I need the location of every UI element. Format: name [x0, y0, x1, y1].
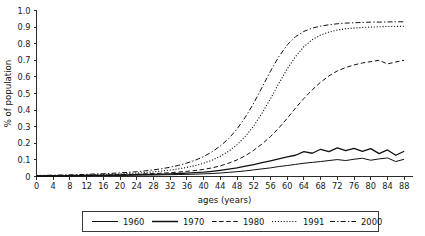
x-tick-label: 16	[98, 181, 108, 191]
legend-label-1970: 1970	[183, 217, 204, 227]
x-tick-label: 68	[315, 181, 325, 191]
y-axis-title: % of population	[3, 60, 13, 128]
x-tick-label: 40	[198, 181, 208, 191]
x-tick-label: 52	[249, 181, 259, 191]
y-tick-label: 0.9	[17, 22, 30, 32]
legend-label-1960: 1960	[123, 217, 144, 227]
x-tick-label: 84	[382, 181, 392, 191]
y-tick-label: 0.2	[17, 138, 30, 148]
line-chart: 00.10.20.30.40.50.60.70.80.91.0 04812162…	[0, 0, 425, 236]
x-tick-label: 24	[132, 181, 142, 191]
x-tick-label: 72	[332, 181, 342, 191]
x-tick-label: 4	[51, 181, 56, 191]
x-tick-label: 88	[399, 181, 409, 191]
y-tick-label: 0.8	[17, 39, 30, 49]
y-tick-label: 0	[25, 172, 30, 182]
legend-label-1980: 1980	[243, 217, 264, 227]
x-tick-label: 60	[282, 181, 292, 191]
x-tick-label: 36	[182, 181, 192, 191]
x-tick-label: 28	[148, 181, 158, 191]
y-tick-label: 0.6	[17, 72, 30, 82]
x-tick-label: 64	[299, 181, 309, 191]
x-tick-label: 0	[34, 181, 39, 191]
y-tick-label: 1.0	[17, 6, 30, 16]
x-tick-label: 12	[81, 181, 91, 191]
y-tick-label: 0.4	[17, 105, 30, 115]
x-tick-label: 32	[165, 181, 175, 191]
y-tick-label: 0.5	[17, 89, 30, 99]
x-tick-label: 44	[215, 181, 225, 191]
legend-label-2000: 2000	[361, 217, 382, 227]
x-tick-label: 48	[232, 181, 242, 191]
y-tick-label: 0.3	[17, 122, 30, 132]
x-tick-label: 76	[349, 181, 359, 191]
x-tick-label: 80	[366, 181, 376, 191]
x-axis-title: ages (years)	[198, 195, 252, 205]
legend-label-1991: 1991	[303, 217, 324, 227]
chart-container: 00.10.20.30.40.50.60.70.80.91.0 04812162…	[0, 0, 425, 236]
x-tick-label: 56	[265, 181, 275, 191]
y-tick-label: 0.1	[17, 155, 30, 165]
y-tick-label: 0.7	[17, 55, 30, 65]
x-tick-label: 8	[67, 181, 72, 191]
x-tick-label: 20	[115, 181, 125, 191]
